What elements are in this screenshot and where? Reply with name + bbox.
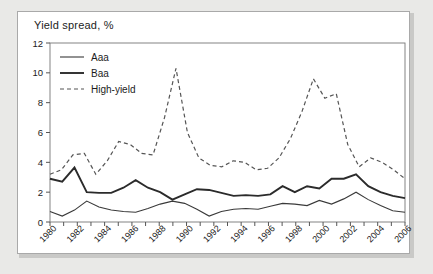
x-tick-label: 1986 <box>119 223 140 244</box>
legend-label-baa: Baa <box>91 68 109 79</box>
chart-plot-area: 0246810121980198219841986198819901992199… <box>0 0 433 274</box>
y-tick-label: 12 <box>32 38 43 49</box>
y-tick-label: 0 <box>38 217 43 228</box>
x-tick-label: 2006 <box>392 223 413 244</box>
x-tick-label: 1994 <box>228 223 249 244</box>
x-tick-label: 1996 <box>256 223 277 244</box>
figure-page: Yield spread, % 024681012198019821984198… <box>0 0 433 274</box>
x-tick-label: 1982 <box>65 223 86 244</box>
legend-label-high-yield: High-yield <box>91 84 135 95</box>
y-tick-label: 10 <box>32 67 43 78</box>
y-tick-label: 2 <box>38 187 43 198</box>
x-tick-label: 1988 <box>146 223 167 244</box>
x-tick-label: 2002 <box>338 223 359 244</box>
legend-group: AaaBaaHigh-yield <box>60 52 135 95</box>
y-tick-label: 6 <box>38 127 43 138</box>
x-tick-label: 1992 <box>201 223 222 244</box>
series-line-aaa <box>50 192 405 216</box>
x-tick-label: 1990 <box>174 223 195 244</box>
x-tick-label: 1984 <box>92 223 113 244</box>
legend-label-aaa: Aaa <box>91 52 109 63</box>
x-tick-label: 1998 <box>283 223 304 244</box>
y-tick-label: 8 <box>38 97 43 108</box>
axes-group: 0246810121980198219841986198819901992199… <box>32 38 413 245</box>
x-tick-label: 2004 <box>365 223 386 244</box>
y-tick-label: 4 <box>38 157 43 168</box>
x-tick-label: 2000 <box>310 223 331 244</box>
